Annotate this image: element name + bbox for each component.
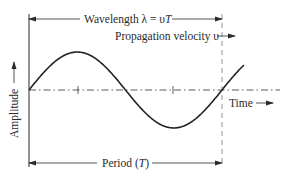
time-label: Time	[229, 97, 253, 109]
diagram-canvas: Wavelength λ = υT Propagation velocity υ…	[0, 0, 291, 181]
amplitude-label-group: Amplitude	[8, 62, 21, 138]
propagation-velocity-label: Propagation velocity υ	[115, 30, 219, 43]
wavelength-label: Wavelength λ = υT	[84, 13, 173, 26]
period-label: Period (T)	[102, 157, 149, 170]
amplitude-label: Amplitude	[8, 89, 21, 138]
wave-diagram: Wavelength λ = υT Propagation velocity υ…	[0, 0, 291, 181]
